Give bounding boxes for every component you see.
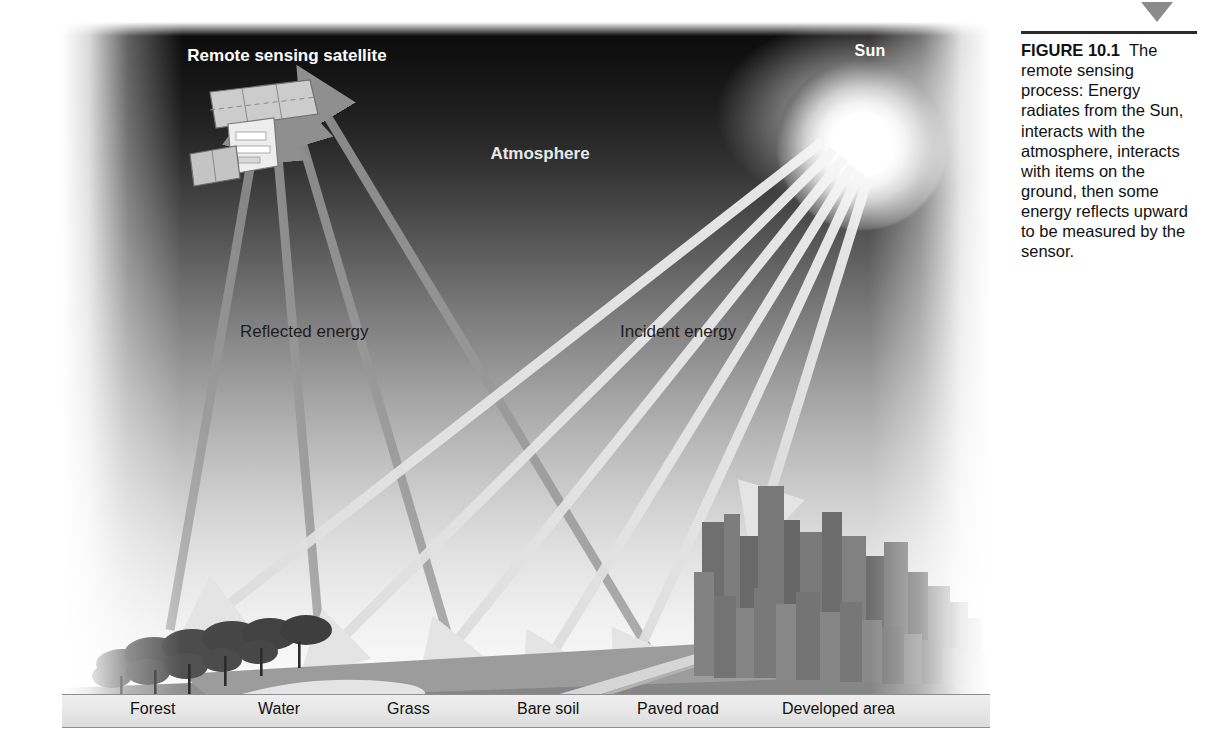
developed-area-buildings bbox=[694, 486, 984, 684]
legend-item: Forest bbox=[130, 700, 175, 718]
remote-sensing-illustration: Sun Atmosphere bbox=[62, 22, 990, 726]
figure-caption-body: The remote sensing process: Energy radia… bbox=[1021, 41, 1188, 260]
legend-item: Water bbox=[258, 700, 300, 718]
figure-caption: FIGURE 10.1 The remote sensing process: … bbox=[1021, 40, 1197, 261]
surface-class-legend: Forest Water Grass Bare soil Paved road … bbox=[62, 694, 990, 728]
figure-number: FIGURE 10.1 bbox=[1021, 41, 1120, 59]
figure-page: Sun Atmosphere bbox=[0, 0, 1205, 755]
legend-item: Bare soil bbox=[517, 700, 579, 718]
ground-surfaces bbox=[62, 476, 990, 726]
caption-divider bbox=[1021, 31, 1197, 34]
legend-item: Grass bbox=[387, 700, 430, 718]
incident-energy-label: Incident energy bbox=[620, 322, 736, 342]
reflected-energy-label: Reflected energy bbox=[240, 322, 369, 342]
triangle-down-icon bbox=[1141, 2, 1173, 22]
satellite-icon bbox=[182, 62, 382, 222]
legend-item: Developed area bbox=[782, 700, 895, 718]
legend-item: Paved road bbox=[637, 700, 719, 718]
